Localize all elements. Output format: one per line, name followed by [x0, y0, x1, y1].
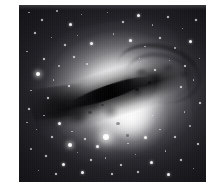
star	[180, 159, 182, 161]
star	[154, 69, 156, 71]
star	[62, 163, 65, 166]
star	[111, 173, 113, 175]
star	[58, 65, 59, 66]
star	[53, 79, 54, 80]
dark-knot	[116, 122, 120, 125]
star	[64, 44, 66, 46]
star	[55, 173, 57, 175]
dark-knot	[88, 111, 92, 114]
star	[38, 170, 39, 171]
star	[30, 148, 31, 149]
star	[174, 47, 175, 48]
star	[68, 85, 70, 87]
star	[71, 131, 72, 132]
astronomy-photo	[19, 5, 206, 182]
star	[96, 145, 99, 148]
star	[113, 33, 114, 34]
star	[144, 46, 145, 47]
star	[197, 143, 199, 145]
star	[184, 111, 185, 112]
star	[150, 161, 153, 164]
star	[34, 32, 36, 34]
star	[122, 21, 124, 23]
star	[137, 14, 140, 17]
star	[90, 159, 92, 161]
star	[86, 63, 87, 64]
star	[152, 24, 153, 25]
dark-knot	[126, 134, 129, 137]
star	[56, 10, 57, 11]
page-root	[0, 0, 213, 190]
dark-knot	[148, 81, 151, 84]
star	[189, 125, 190, 126]
star	[184, 65, 186, 67]
star	[51, 136, 53, 138]
star	[167, 173, 170, 176]
star	[43, 115, 44, 116]
plate-edge-light-leak	[19, 5, 206, 10]
star	[195, 19, 197, 21]
star	[167, 16, 169, 18]
star	[68, 143, 72, 147]
caption-area	[0, 182, 213, 190]
